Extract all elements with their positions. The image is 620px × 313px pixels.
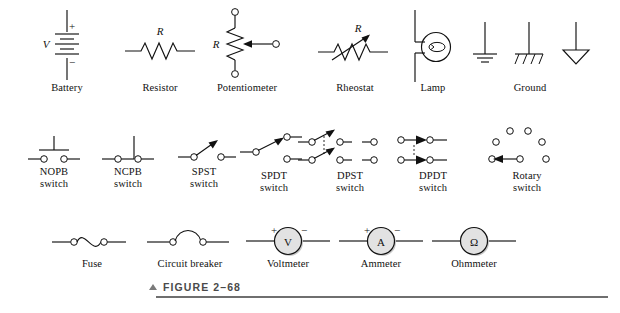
symbol-label-dpdt-switch: DPDT switch bbox=[383, 170, 483, 193]
svg-text:V: V bbox=[284, 236, 292, 248]
ohmmeter-symbol: Ω bbox=[418, 224, 530, 258]
symbol-cell-dpdt-switch: DPDT switch bbox=[383, 128, 483, 193]
svg-text:−: − bbox=[69, 56, 75, 68]
earth-ground-icon bbox=[473, 22, 497, 62]
svg-text:Ω: Ω bbox=[470, 236, 478, 248]
symbol-label-rotary-switch: Rotary switch bbox=[472, 170, 582, 193]
symbol-row-3: Fuse Circuit breaker bbox=[0, 224, 620, 280]
svg-text:R: R bbox=[354, 22, 362, 34]
ground-symbol bbox=[455, 6, 605, 82]
symbol-label-ohmmeter: Ohmmeter bbox=[418, 258, 530, 270]
svg-text:R: R bbox=[156, 25, 164, 37]
figure-caption bbox=[0, 279, 620, 301]
dpdt-switch-symbol bbox=[383, 128, 483, 170]
chassis-ground-icon bbox=[515, 22, 543, 64]
rotary-switch-symbol bbox=[472, 128, 582, 170]
symbol-row-1: + − V Battery R Resistor bbox=[0, 0, 620, 110]
svg-text:+: + bbox=[271, 224, 277, 236]
symbol-cell-potentiometer: R Potentiometer bbox=[188, 6, 306, 94]
symbol-cell-rotary-switch: Rotary switch bbox=[472, 128, 582, 193]
svg-text:A: A bbox=[377, 236, 385, 248]
svg-text:R: R bbox=[212, 38, 220, 50]
signal-ground-icon bbox=[563, 22, 589, 64]
caption-rule bbox=[156, 296, 608, 298]
symbol-label-potentiometer: Potentiometer bbox=[188, 82, 306, 94]
symbol-row-2: NOPB switch NCPB switch bbox=[0, 128, 620, 200]
figure-sheet: + − V Battery R Resistor bbox=[0, 0, 620, 313]
svg-text:+: + bbox=[364, 224, 370, 236]
svg-text:+: + bbox=[69, 20, 75, 32]
potentiometer-symbol: R bbox=[188, 6, 306, 82]
symbol-cell-ground: Ground bbox=[455, 6, 605, 94]
symbol-cell-ohmmeter: Ω Ohmmeter bbox=[418, 224, 530, 270]
svg-text:−: − bbox=[301, 224, 307, 236]
svg-text:V: V bbox=[43, 38, 51, 50]
symbol-label-ground: Ground bbox=[455, 82, 605, 94]
figure-caption-label: FIGURE 2–68 bbox=[163, 281, 241, 293]
svg-text:−: − bbox=[394, 224, 400, 236]
